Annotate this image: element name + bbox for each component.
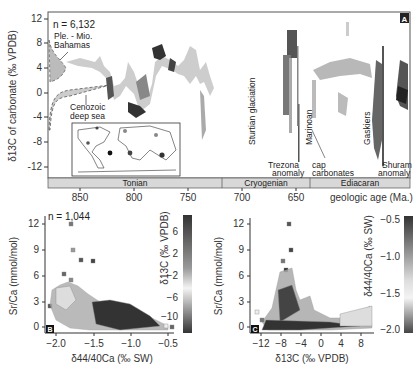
y-tick-label: 6 — [33, 270, 39, 281]
colorbar-c — [404, 216, 413, 333]
y-tick-label: 3 — [238, 296, 244, 307]
panel-tag-c: C — [252, 326, 257, 333]
panel-tag-a-label: A — [402, 15, 408, 24]
annotation-deep-sea: deep sea — [70, 111, 105, 121]
panel-b: n = 1,044 12 9 6 3 0 Sr/Ca (mmol/mol) −2… — [8, 211, 192, 364]
colorbar-tick: −0.5 — [380, 214, 400, 225]
y-tick-label: 6 — [238, 270, 244, 281]
x-tick-label: 8 — [358, 338, 364, 349]
x-tick-label: 750 — [180, 192, 197, 203]
y-axis-label: Sr/Ca (mmol/mol) — [8, 237, 19, 315]
x-tick-label: 0 — [318, 338, 324, 349]
y-tick-label: 9 — [33, 244, 39, 255]
colorbar-tick: −6 — [167, 292, 179, 303]
y-tick-label: 12 — [28, 218, 40, 229]
colorbar-tick: −2.0 — [380, 324, 400, 335]
figure: 12 8 4 0 -4 -8 -12 δ13C of carbonate (‰ … — [0, 0, 419, 372]
y-axis-label: δ13C of carbonate (‰ VPDB) — [7, 30, 18, 162]
y-tick-label: 0 — [238, 321, 244, 332]
y-axis-label: Sr/Ca (mmol/mol) — [213, 237, 224, 315]
period-tonian: Tonian — [122, 178, 147, 188]
x-axis-label: geologic age (Ma.) — [330, 192, 413, 203]
x-tick-label: 800 — [126, 192, 143, 203]
period-ediacaran: Ediacaran — [341, 178, 380, 188]
x-tick-label: −0.5 — [158, 338, 178, 349]
period-cryogenian: Cryogenian — [244, 178, 288, 188]
colorbar-label: δ44/40Ca (‰ SW) — [363, 215, 374, 297]
x-tick-label: −8 — [275, 338, 287, 349]
y-tick-label: 9 — [238, 244, 244, 255]
x-tick-label: −12 — [253, 338, 270, 349]
x-axis-label: δ13C (‰ VPDB) — [275, 353, 348, 364]
colorbar-label: δ13C (‰ VPDB) — [159, 211, 170, 284]
panel-a-y-axis: 12 8 4 0 -4 -8 -12 δ13C of carbonate (‰ … — [7, 13, 48, 172]
colorbar-b — [183, 215, 192, 333]
x-tick-label: −1.0 — [121, 338, 141, 349]
x-tick-label: −2.0 — [46, 338, 66, 349]
x-tick-label: −1.5 — [84, 338, 104, 349]
y-tick-label: 3 — [33, 296, 39, 307]
colorbar-tick: 2 — [172, 248, 178, 259]
y-tick-label: 4 — [36, 62, 42, 73]
x-tick-label: 650 — [288, 192, 305, 203]
x-tick-label: 700 — [234, 192, 251, 203]
n-count-a: n = 6,132 — [53, 19, 95, 30]
y-tick-label: 0 — [36, 87, 42, 98]
annotation-trezona: anomaly — [272, 168, 305, 178]
panel-b-points — [48, 222, 174, 330]
x-tick-label: 850 — [72, 192, 89, 203]
y-tick-label: 8 — [36, 37, 42, 48]
annotation-gaskiers: Gaskiers — [362, 111, 372, 145]
x-tick-label: −4 — [295, 338, 307, 349]
x-tick-label: 4 — [338, 338, 344, 349]
panel-tag-b: B — [47, 326, 52, 333]
annotation-bahamas: Bahamas — [54, 40, 90, 50]
annotation-shuram: anomaly — [378, 168, 411, 178]
annotation-sturtian: Sturtian glaciation — [247, 77, 257, 145]
panel-a-x-axis: 850 800 750 700 650 geologic age (Ma.) — [72, 188, 413, 203]
y-tick-label: -12 — [28, 161, 43, 172]
annotation-cap-carbonates: carbonates — [312, 168, 354, 178]
panel-c: 12 9 6 3 0 Sr/Ca (mmol/mol) −12 −8 −4 0 … — [213, 214, 413, 364]
annotation-marinoan: Marinoan — [304, 109, 314, 145]
panel-a: 12 8 4 0 -4 -8 -12 δ13C of carbonate (‰ … — [7, 12, 413, 203]
y-tick-label: 12 — [233, 218, 245, 229]
inset-world-map — [72, 123, 180, 176]
y-tick-label: 12 — [31, 13, 43, 24]
panel-c-points — [255, 222, 372, 330]
colorbar-tick: −1.5 — [380, 288, 400, 299]
y-tick-label: 0 — [33, 321, 39, 332]
colorbar-tick: −10 — [161, 311, 178, 322]
period-band: Tonian Cryogenian Ediacaran — [48, 178, 410, 188]
x-axis-label: δ44/40Ca (‰ SW) — [71, 353, 153, 364]
n-count-b: n = 1,044 — [48, 211, 90, 222]
y-tick-label: -4 — [33, 111, 42, 122]
y-tick-label: -8 — [33, 136, 42, 147]
colorbar-tick: −1.0 — [380, 251, 400, 262]
colorbar-tick: 6 — [172, 226, 178, 237]
